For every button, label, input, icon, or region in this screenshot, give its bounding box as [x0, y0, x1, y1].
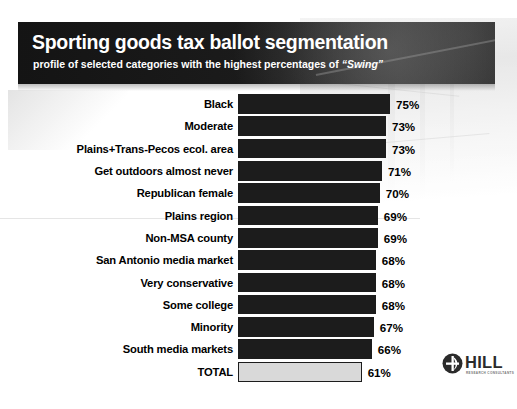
chart-row: San Antonio media market68% [0, 249, 517, 271]
hill-logo-text: HILL [465, 354, 503, 371]
chart-bar-value: 66% [378, 343, 401, 356]
chart-row: Plains region69% [0, 204, 517, 226]
header-band: Sporting goods tax ballot segmentation p… [18, 22, 495, 84]
chart-row: Black75% [0, 93, 517, 115]
chart-row-label: Plains+Trans-Pecos ecol. area [0, 143, 238, 155]
subtitle-emphasis: “Swing” [342, 58, 383, 70]
chart-row: Non-MSA county69% [0, 227, 517, 249]
chart-row: Republican female70% [0, 182, 517, 204]
chart-bar-track: 69% [238, 227, 517, 249]
chart-bar-value: 73% [392, 142, 415, 155]
subtitle-text: profile of selected categories with the … [33, 58, 342, 70]
chart-bar [238, 206, 378, 226]
chart-bar-track: 68% [238, 294, 517, 316]
chart-bar-value: 75% [396, 98, 419, 111]
chart-bar-value: 68% [382, 276, 405, 289]
chart-bar-track: 69% [238, 204, 517, 226]
chart-bar-value: 71% [388, 165, 411, 178]
chart-row-label: Black [0, 98, 238, 110]
chart-row-label: South media markets [0, 343, 238, 355]
chart-bar-track: 68% [238, 249, 517, 271]
page-title: Sporting goods tax ballot segmentation [32, 31, 388, 54]
chart-bar-track: 70% [238, 182, 517, 204]
chart-bar [238, 116, 386, 136]
chart-bar-value: 68% [382, 298, 405, 311]
chart-bar-track: 68% [238, 271, 517, 293]
chart-bar-value: 70% [386, 187, 409, 200]
chart-row-label: Minority [0, 321, 238, 333]
chart-bar [238, 273, 376, 293]
chart-bar [238, 139, 386, 159]
chart-bar-value: 69% [384, 209, 407, 222]
chart-bar-track: 71% [238, 160, 517, 182]
chart-bar-value: 68% [382, 254, 405, 267]
chart-row-total: TOTAL61% [0, 361, 517, 383]
chart-bar-value: 69% [384, 231, 407, 244]
hill-logo-tagline: RESEARCH CONSULTANTS [466, 371, 514, 375]
chart-row-label: TOTAL [0, 366, 238, 378]
header-drop-shadow [18, 84, 495, 91]
chart-bar-value: 61% [368, 365, 391, 378]
chart-bar [238, 161, 382, 181]
chart-row: Very conservative68% [0, 271, 517, 293]
chart-bar [238, 339, 372, 359]
chart-row: Some college68% [0, 294, 517, 316]
bar-chart: Black75%Moderate73%Plains+Trans-Pecos ec… [0, 93, 517, 383]
hill-logo-mark-icon [442, 353, 463, 374]
chart-row-label: Get outdoors almost never [0, 165, 238, 177]
page-subtitle: profile of selected categories with the … [33, 58, 383, 70]
chart-row-label: Very conservative [0, 277, 238, 289]
chart-bar-track: 73% [238, 138, 517, 160]
chart-bar-total [238, 362, 362, 382]
chart-bar [238, 183, 380, 203]
chart-bar-track: 67% [238, 316, 517, 338]
slide-canvas: Sporting goods tax ballot segmentation p… [0, 0, 517, 409]
chart-row: Plains+Trans-Pecos ecol. area73% [0, 138, 517, 160]
chart-row: Get outdoors almost never71% [0, 160, 517, 182]
chart-row-label: Republican female [0, 187, 238, 199]
chart-bar [238, 94, 390, 114]
chart-bar [238, 228, 378, 248]
chart-bar [238, 317, 374, 337]
chart-row-label: Moderate [0, 120, 238, 132]
chart-row-label: Non-MSA county [0, 232, 238, 244]
chart-row-label: San Antonio media market [0, 254, 238, 266]
chart-bar [238, 250, 376, 270]
hill-logo: HILL RESEARCH CONSULTANTS [442, 352, 512, 382]
chart-row-label: Some college [0, 299, 238, 311]
chart-row: Minority67% [0, 316, 517, 338]
chart-row: South media markets66% [0, 338, 517, 360]
chart-bar-track: 73% [238, 115, 517, 137]
chart-row: Moderate73% [0, 115, 517, 137]
chart-bar-track: 75% [238, 93, 517, 115]
chart-row-label: Plains region [0, 210, 238, 222]
chart-bar-value: 73% [392, 120, 415, 133]
chart-bar [238, 295, 376, 315]
chart-bar-value: 67% [380, 321, 403, 334]
